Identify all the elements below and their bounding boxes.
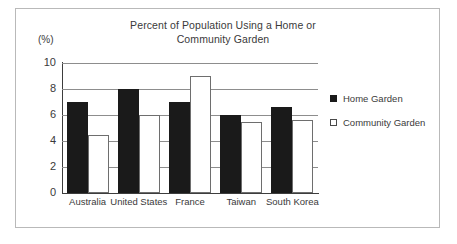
x-axis-label-south-korea: South Korea bbox=[266, 196, 319, 207]
legend-item-label: Home Garden bbox=[343, 93, 403, 104]
legend-item-home-garden[interactable]: Home Garden bbox=[330, 93, 438, 104]
x-axis-label-france: France bbox=[175, 196, 205, 207]
bar-south-korea-community-garden bbox=[292, 120, 313, 193]
bar-south-korea-home-garden bbox=[271, 107, 292, 193]
chart-title-line-1: Percent of Population Using a Home or bbox=[78, 18, 368, 32]
y-axis-unit-label: (%) bbox=[38, 34, 54, 45]
gridline bbox=[62, 63, 318, 64]
plot-area bbox=[62, 63, 318, 193]
bar-united-states-community-garden bbox=[139, 115, 160, 193]
x-axis-label-united-states: United States bbox=[110, 196, 167, 207]
x-axis-label-taiwan: Taiwan bbox=[226, 196, 256, 207]
bar-australia-community-garden bbox=[88, 135, 109, 194]
y-axis-tick-label: 8 bbox=[34, 82, 56, 94]
bar-france-home-garden bbox=[169, 102, 190, 193]
legend-item-label: Community Garden bbox=[343, 117, 425, 128]
x-axis-label-australia: Australia bbox=[69, 196, 106, 207]
y-axis-tick-labels: 1086420 bbox=[32, 63, 56, 193]
chart-legend: Home GardenCommunity Garden bbox=[330, 93, 438, 141]
hollow-square-icon bbox=[330, 119, 337, 126]
bar-taiwan-community-garden bbox=[241, 122, 262, 194]
bar-taiwan-home-garden bbox=[220, 115, 241, 193]
x-axis-category-labels: AustraliaUnited StatesFranceTaiwanSouth … bbox=[62, 196, 318, 214]
y-axis-tick-label: 10 bbox=[34, 56, 56, 68]
y-axis-tick-label: 4 bbox=[34, 134, 56, 146]
y-axis-tick-label: 2 bbox=[34, 160, 56, 172]
y-axis-tick-label: 6 bbox=[34, 108, 56, 120]
legend-item-community-garden[interactable]: Community Garden bbox=[330, 117, 438, 128]
bar-australia-home-garden bbox=[67, 102, 88, 193]
bar-united-states-home-garden bbox=[118, 89, 139, 193]
chart-title: Percent of Population Using a Home or Co… bbox=[78, 18, 368, 46]
filled-square-icon bbox=[330, 95, 337, 102]
x-axis-line bbox=[62, 193, 319, 194]
bar-france-community-garden bbox=[190, 76, 211, 193]
chart-figure: Percent of Population Using a Home or Co… bbox=[0, 0, 457, 244]
chart-title-line-2: Community Garden bbox=[78, 32, 368, 46]
y-axis-tick-label: 0 bbox=[34, 186, 56, 198]
